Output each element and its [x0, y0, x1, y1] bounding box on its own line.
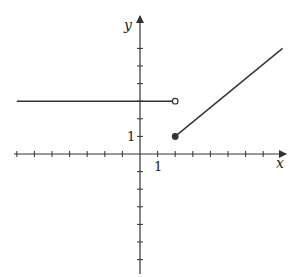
y-axis-label: y — [123, 17, 133, 33]
y-tick-label-1: 1 — [127, 129, 135, 144]
x-tick-label-1: 1 — [154, 159, 162, 174]
x-axis-label: x — [276, 155, 284, 171]
closed-endpoint-marker — [172, 134, 178, 140]
series-line-2 — [175, 48, 282, 136]
piecewise-graph: y x 1 1 — [0, 0, 292, 277]
open-endpoint-marker — [172, 98, 178, 104]
curves — [17, 48, 283, 139]
axes — [14, 16, 286, 274]
